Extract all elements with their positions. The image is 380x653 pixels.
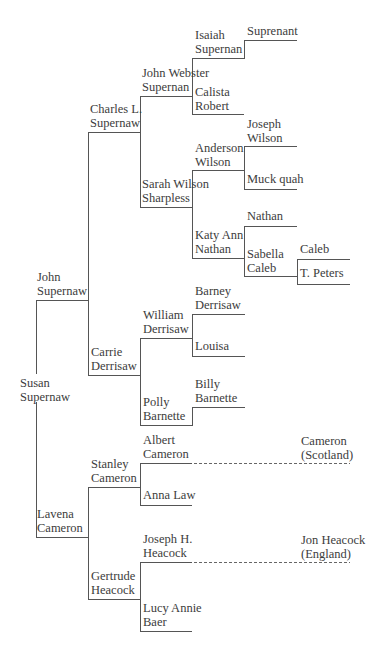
name-line: Isaiah [195,29,242,43]
name-line: Supernaw [37,285,87,299]
name-line: Anderson [195,142,244,156]
name-line: Nathan [247,210,283,224]
name-line: Wilson [247,132,283,146]
person-isaiah-supernan: Isaiah Supernan [195,29,242,56]
name-line: Katy Ann [195,229,243,243]
person-katy-ann-nathan: Katy Ann Nathan [195,229,243,256]
person-lucy-annie-baer: Lucy Annie Baer [143,602,202,629]
family-tree-diagram: Susan Supernaw John Supernaw Lavena Came… [0,0,380,653]
name-line: Derrisaw [143,323,189,337]
name-line: Barnette [195,392,237,406]
person-polly-barnette: Polly Barnette [143,396,185,423]
name-line: (England) [301,548,365,562]
person-joseph-wilson: Joseph Wilson [247,118,283,145]
person-cameron-scotland: Cameron (Scotland) [301,435,353,462]
name-line: Lavena [37,508,83,522]
name-line: Muck quah [247,173,304,187]
name-line: Albert [143,434,189,448]
name-line: John [37,271,87,285]
name-line: Robert [195,100,230,114]
name-line: Louisa [195,340,229,354]
name-line: Caleb [300,243,329,257]
person-joseph-h-heacock: Joseph H. Heacock [143,533,192,560]
name-line: Derrisaw [91,360,137,374]
person-muck-quah: Muck quah [247,173,304,187]
name-line: Carrie [91,346,137,360]
person-gertrude-heacock: Gertrude Heacock [91,570,135,597]
name-line: Cameron [301,435,353,449]
person-calista-robert: Calista Robert [195,86,230,113]
name-line: Charles L. [90,103,142,117]
name-line: Cameron [37,522,83,536]
name-line: Joseph H. [143,533,192,547]
person-william-derrisaw: William Derrisaw [143,309,189,336]
name-line: Joseph [247,118,283,132]
name-line: Baer [143,616,202,630]
name-line: Derrisaw [195,299,241,313]
name-line: Supernan [195,43,242,57]
person-carrie-derrisaw: Carrie Derrisaw [91,346,137,373]
name-line: Susan [20,377,70,391]
name-line: William [143,309,189,323]
name-line: John Webster [142,67,209,81]
person-susan-supernaw: Susan Supernaw [20,377,70,404]
name-line: Polly [143,396,185,410]
name-line: Sharpless [142,192,209,206]
name-line: Suprenant [247,25,298,39]
name-line: Supernaw [20,391,70,405]
person-louisa: Louisa [195,340,229,354]
name-line: Jon Heacock [301,534,365,548]
name-line: Calista [195,86,230,100]
person-t-peters: T. Peters [300,267,344,281]
person-nathan: Nathan [247,210,283,224]
person-sarah-wilson-sharpless: Sarah Wilson Sharpless [142,178,209,205]
name-line: Cameron [143,448,189,462]
person-albert-cameron: Albert Cameron [143,434,189,461]
person-sabella-caleb: Sabella Caleb [247,248,284,275]
name-line: Billy [195,378,237,392]
person-stanley-cameron: Stanley Cameron [91,458,137,485]
person-lavena-cameron: Lavena Cameron [37,508,83,535]
name-line: Anna Law [143,489,195,503]
name-line: (Scotland) [301,449,353,463]
person-caleb: Caleb [300,243,329,257]
name-line: Barney [195,285,241,299]
person-billy-barnette: Billy Barnette [195,378,237,405]
name-line: Gertrude [91,570,135,584]
name-line: Lucy Annie [143,602,202,616]
name-line: Stanley [91,458,137,472]
person-charles-supernaw: Charles L. Supernaw [90,103,142,130]
person-jon-heacock-england: Jon Heacock (England) [301,534,365,561]
person-barney-derrisaw: Barney Derrisaw [195,285,241,312]
name-line: Supernaw [90,117,142,131]
name-line: Sabella [247,248,284,262]
person-anderson-wilson: Anderson Wilson [195,142,244,169]
name-line: T. Peters [300,267,344,281]
name-line: Heacock [143,547,192,561]
name-line: Sarah Wilson [142,178,209,192]
name-line: Cameron [91,472,137,486]
person-anna-law: Anna Law [143,489,195,503]
name-line: Heacock [91,584,135,598]
person-john-supernaw: John Supernaw [37,271,87,298]
name-line: Barnette [143,410,185,424]
person-suprenant: Suprenant [247,25,298,39]
name-line: Wilson [195,156,244,170]
name-line: Caleb [247,262,284,276]
name-line: Nathan [195,243,243,257]
